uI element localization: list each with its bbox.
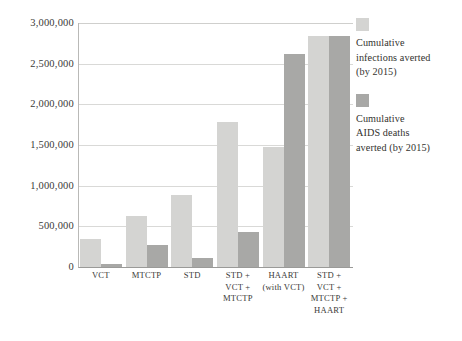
y-axis-tick-label: 3,000,000 [2,18,74,29]
bar [284,54,305,267]
y-axis-tick-label: 1,000,000 [2,180,74,191]
legend-label-line: (by 2015) [356,65,460,80]
bar [101,264,122,267]
y-axis-tick-label: 2,000,000 [2,99,74,110]
bar-group [171,23,213,267]
legend-item: CumulativeAIDS deathsaverted (by 2015) [356,94,460,156]
bar [217,122,238,267]
bar [171,195,192,267]
x-axis-tick-label-line: HAART [301,305,357,317]
bars-layer [78,23,352,267]
bar [192,258,213,267]
legend-label-line: infections averted [356,51,460,66]
bar-group [308,23,350,267]
bar-group [263,23,305,267]
legend-label-line: Cumulative [356,112,460,127]
y-axis-tick-label: 0 [2,262,74,273]
legend-swatch [356,18,369,31]
bar [126,216,147,267]
y-axis-tick-label: 1,500,000 [2,140,74,151]
x-axis-tick-label-line: MTCTP + [301,293,357,305]
bar [329,36,350,267]
bar-group [126,23,168,267]
bar [238,232,259,267]
bar-chart: 0500,0001,000,0001,500,0002,000,0002,500… [0,0,462,341]
bar-group [80,23,122,267]
legend-label-line: averted (by 2015) [356,141,460,156]
bar [263,147,284,267]
x-axis-tick-label: STD +VCT +MTCTP +HAART [301,270,357,316]
bar [308,36,329,267]
bar [147,245,168,267]
legend-item: Cumulativeinfections averted(by 2015) [356,18,460,80]
chart-legend: Cumulativeinfections averted(by 2015)Cum… [356,18,460,169]
bar-group [217,23,259,267]
x-axis-tick-label-line: VCT + [301,282,357,294]
x-axis-tick-label-line: MTCTP [210,293,266,305]
y-axis-tick-label: 2,500,000 [2,58,74,69]
legend-label-line: AIDS deaths [356,126,460,141]
bar [80,239,101,267]
y-axis-labels: 0500,0001,000,0001,500,0002,000,0002,500… [0,23,74,267]
x-axis-tick-label-line: STD + [301,270,357,282]
x-axis-labels: VCTMTCTPSTDSTD +VCT +MTCTPHAART(with VCT… [78,270,352,340]
legend-label-line: Cumulative [356,36,460,51]
legend-swatch [356,94,369,107]
y-axis-tick-label: 500,000 [2,221,74,232]
